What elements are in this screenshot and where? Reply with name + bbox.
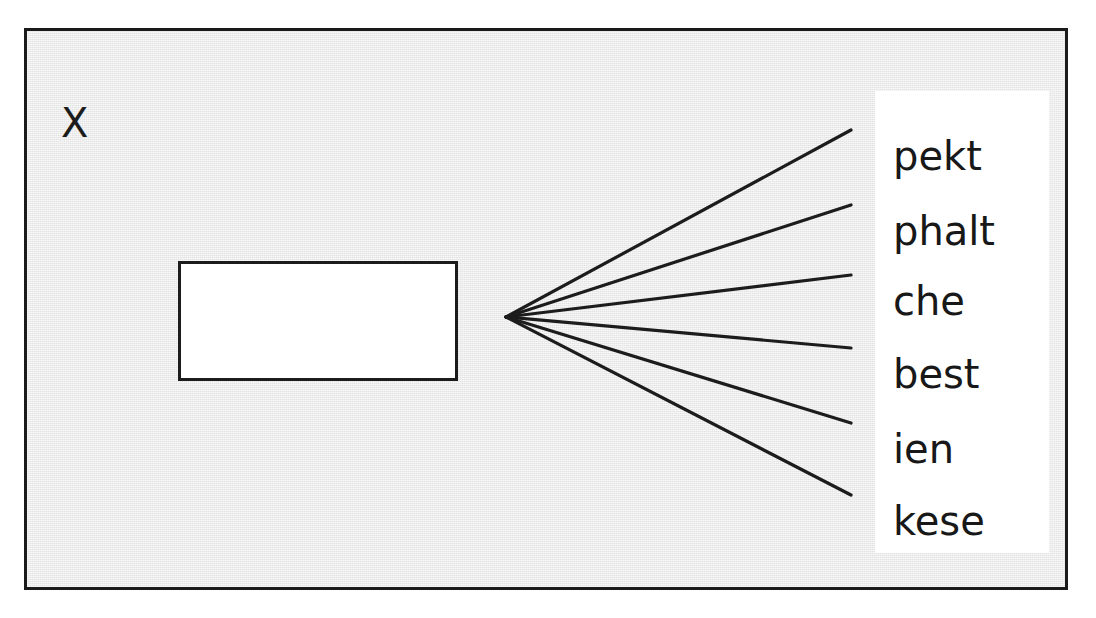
panel-marker-label: X <box>61 103 88 143</box>
callout-label: che <box>893 281 965 321</box>
leader-line <box>506 130 851 317</box>
callout-label: ien <box>893 429 954 469</box>
empty-box-node <box>178 261 458 381</box>
leader-line <box>506 205 851 317</box>
label-list: pektphaltchebestienkese <box>893 91 1049 553</box>
figure-canvas: X pektphaltchebestienkese <box>0 0 1096 618</box>
figure-frame: X pektphaltchebestienkese <box>24 28 1068 590</box>
leader-line <box>506 317 851 423</box>
callout-label: best <box>893 354 980 394</box>
leader-line <box>506 317 851 495</box>
callout-label: phalt <box>893 211 995 251</box>
callout-label: pekt <box>893 136 982 176</box>
leader-line <box>506 275 851 317</box>
leader-line <box>506 317 851 348</box>
label-panel: pektphaltchebestienkese <box>875 91 1049 553</box>
callout-label: kese <box>893 501 985 541</box>
